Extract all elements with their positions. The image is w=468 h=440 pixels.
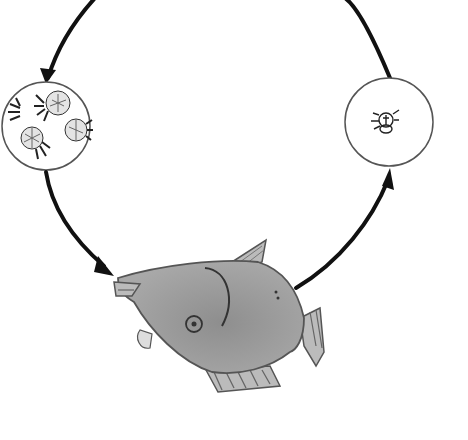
fish-icon	[114, 240, 324, 392]
life-cycle-diagram	[0, 0, 468, 440]
diagram-canvas	[0, 0, 468, 440]
left-circle-organism-cluster	[2, 82, 93, 170]
arrow-top-arc	[40, 0, 390, 84]
arrow-fish-to-right	[296, 168, 394, 288]
right-circle-larva	[345, 78, 433, 166]
arrow-left-to-fish	[46, 172, 114, 276]
